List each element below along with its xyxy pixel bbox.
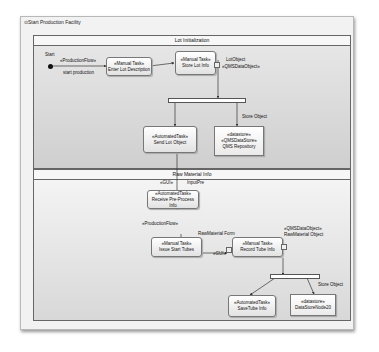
qms-data-object-label: «QMSDataObject» <box>222 64 260 69</box>
fork-bar[interactable] <box>168 98 246 103</box>
fork-bar-2[interactable] <box>270 274 320 279</box>
node-store-lot-info[interactable]: «Manual Task» Store Lot Info <box>175 51 216 75</box>
store-object-2-label: Store Object <box>318 282 343 287</box>
input-pre-label: InputPre <box>187 180 204 185</box>
qms-data-object-2-label: «QMSDataObject» <box>284 226 322 231</box>
start-label: Start <box>45 52 55 57</box>
production-flow-label: «ProductionFlow» <box>142 221 178 226</box>
gui-label: «GUI» <box>160 180 173 185</box>
lot-object-label: LotObject <box>226 57 245 62</box>
node-save-tube-info[interactable]: «AutomatedTask» SaveTube Info <box>228 295 276 317</box>
flow-label: start production <box>63 70 94 75</box>
node-send-lot-object[interactable]: «AutomatedTask» Send Lot Object <box>143 126 197 153</box>
node-enter-lot-description[interactable]: «Manual Task» Enter Lot Description <box>106 57 152 76</box>
raw-material-form-label: RawMaterial Form <box>198 231 235 236</box>
flow-stereotype: «ProductionFlow» <box>60 58 96 63</box>
gui2-label: «GUI» <box>213 251 226 256</box>
store-object-label: Store Object <box>242 114 267 119</box>
node-datastore-node-20[interactable]: «datastore» DataStoreNode20 <box>290 294 336 316</box>
raw-material-object-label: RawMaterial Object <box>284 232 323 237</box>
initial-node[interactable] <box>48 64 53 69</box>
output-pin[interactable] <box>214 62 220 68</box>
node-qms-repository[interactable]: «datastore» «QMSDataStore» QMS Repositor… <box>214 126 264 156</box>
node-issue-start-tubes[interactable]: «Manual Task» Issue Start Tubes <box>151 237 202 257</box>
output-pin[interactable] <box>281 244 287 250</box>
node-record-tube-info[interactable]: «Manual Task» Record Tube Info <box>232 237 283 257</box>
node-receive-pre-process-info[interactable]: «AutomatedTask» Receive Pre-Process Info <box>147 190 199 209</box>
